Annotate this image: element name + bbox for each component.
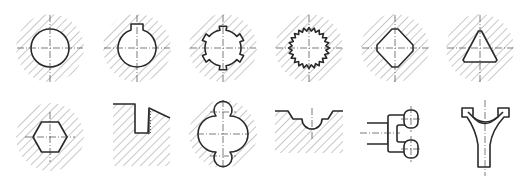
drawing-sheet: Cross-section profiles (0, 0, 526, 184)
profile-triple-circle (189, 100, 257, 168)
profile-keyway-bore (103, 14, 171, 83)
profile-step-slot (113, 104, 170, 166)
profile-spline-bore (189, 14, 257, 83)
profile-round-bore (16, 14, 84, 83)
profile-groove (275, 108, 343, 153)
shift-fork-body (462, 108, 509, 167)
profile-serration-bore (275, 14, 343, 83)
profile-shift-fork (462, 100, 509, 176)
hatch-block (275, 111, 343, 153)
profile-fork-joint (360, 106, 421, 162)
profile-triangle-bore (446, 14, 514, 83)
profile-hex-bore (16, 103, 84, 171)
profile-square-bore (361, 14, 429, 83)
shaft (367, 123, 388, 144)
